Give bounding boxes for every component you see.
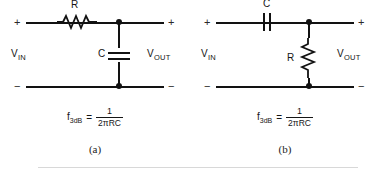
cutoff-formula-b: f3dB = 1 2πRC	[190, 107, 380, 128]
formula-numerator-b: 1	[294, 107, 305, 117]
formula-equals-b: =	[276, 112, 282, 123]
input-port-subscript-b: IN	[208, 53, 216, 62]
capacitor-plate-left-b	[263, 13, 265, 31]
shunt-capacitor-a	[108, 46, 130, 64]
input-port-subscript-a: IN	[18, 53, 26, 62]
input-plus-marker-b: +	[204, 17, 210, 28]
series-resistor-a	[57, 13, 97, 31]
formula-denominator-b: 2πRC	[286, 118, 313, 128]
input-minus-marker-b: −	[204, 81, 210, 92]
top-rail-wire-b	[216, 22, 354, 24]
junction-node-bottom-b	[306, 83, 312, 89]
series-capacitor-label-b: C	[263, 0, 270, 9]
formula-denominator-a: 2πRC	[96, 118, 123, 128]
formula-equals-a: =	[86, 112, 92, 123]
input-minus-marker-a: −	[14, 81, 20, 92]
formula-lhs-a: f3dB	[67, 111, 82, 124]
panel-caption-a: (a)	[0, 143, 190, 155]
input-port-symbol-a: V	[11, 48, 18, 59]
output-port-label-b: VOUT	[337, 48, 361, 62]
bottom-divider	[38, 167, 358, 168]
series-resistor-label-a: R	[71, 0, 78, 10]
junction-node-top-a	[116, 19, 122, 25]
formula-numerator-a: 1	[104, 107, 115, 117]
output-port-label-a: VOUT	[147, 48, 171, 62]
rc-filter-figure: R C + − + − VIN VOUT f3dB = 1 2πRC (a)	[0, 0, 381, 169]
panel-caption-b: (b)	[190, 143, 380, 155]
formula-lhs-b: f3dB	[257, 111, 272, 124]
output-port-symbol-a: V	[147, 48, 154, 59]
junction-node-bottom-a	[116, 83, 122, 89]
formula-lhs-subscript-b: 3dB	[260, 117, 272, 124]
bottom-rail-wire-b	[216, 86, 354, 88]
input-port-label-b: VIN	[201, 48, 216, 62]
output-plus-marker-a: +	[168, 17, 174, 28]
output-minus-marker-a: −	[168, 81, 174, 92]
bottom-rail-wire-a	[26, 86, 164, 88]
capacitor-plate-right-b	[269, 13, 271, 31]
shunt-wire-upper-a	[118, 22, 120, 48]
circuit-panel-b: C R + − + − VIN VOUT f3dB = 1 2πRC (b)	[190, 0, 380, 169]
shunt-resistor-b	[299, 38, 317, 78]
output-port-subscript-a: OUT	[154, 53, 171, 62]
series-capacitor-b	[256, 13, 278, 31]
circuit-panel-a: R C + − + − VIN VOUT f3dB = 1 2πRC (a)	[0, 0, 190, 169]
cutoff-formula-a: f3dB = 1 2πRC	[0, 107, 190, 128]
input-plus-marker-a: +	[14, 17, 20, 28]
junction-node-top-b	[306, 19, 312, 25]
capacitor-plate-top-a	[108, 52, 130, 54]
input-port-label-a: VIN	[11, 48, 26, 62]
output-plus-marker-b: +	[358, 17, 364, 28]
formula-fraction-a: 1 2πRC	[96, 107, 123, 128]
output-port-subscript-b: OUT	[344, 53, 361, 62]
input-port-symbol-b: V	[201, 48, 208, 59]
shunt-capacitor-label-a: C	[98, 48, 105, 59]
output-port-symbol-b: V	[337, 48, 344, 59]
output-minus-marker-b: −	[358, 81, 364, 92]
formula-lhs-subscript-a: 3dB	[70, 117, 82, 124]
capacitor-plate-bottom-a	[108, 58, 130, 60]
shunt-resistor-label-b: R	[287, 52, 294, 63]
formula-fraction-b: 1 2πRC	[286, 107, 313, 128]
